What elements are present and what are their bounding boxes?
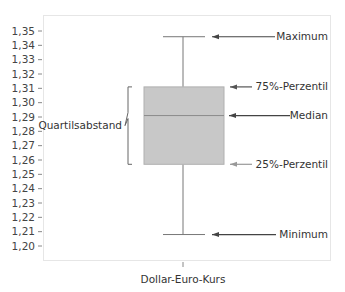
y-tick-label: 1,35 [12, 25, 35, 37]
maximum-label: Maximum [276, 30, 328, 42]
y-tick-label: 1,27 [12, 139, 35, 151]
iqr-box [144, 87, 224, 164]
y-tick-label: 1,20 [12, 240, 35, 252]
y-tick-label: 1,34 [12, 39, 36, 51]
y-tick-label: 1,29 [12, 111, 35, 123]
y-tick-label: 1,32 [12, 68, 35, 80]
iqr-label: Quartilsabstand [38, 119, 122, 131]
boxplot-chart: 1,351,341,331,321,311,301,291,281,271,26… [0, 0, 345, 292]
y-tick-label: 1,31 [12, 82, 35, 94]
y-tick-label: 1,25 [12, 168, 35, 180]
y-tick-label: 1,30 [12, 96, 35, 108]
x-axis-label: Dollar-Euro-Kurs [141, 273, 226, 285]
q3-label: 75%-Perzentil [256, 80, 328, 92]
y-axis: 1,351,341,331,321,311,301,291,281,271,26… [12, 25, 42, 252]
y-tick-label: 1,28 [12, 125, 35, 137]
q1-label: 25%-Perzentil [256, 158, 328, 170]
y-tick-label: 1,23 [12, 197, 35, 209]
y-tick-label: 1,24 [12, 182, 36, 194]
x-axis: Dollar-Euro-Kurs [141, 262, 226, 285]
y-tick-label: 1,26 [12, 154, 36, 166]
median-label: Median [290, 109, 328, 121]
y-tick-label: 1,22 [12, 211, 35, 223]
minimum-label: Minimum [279, 228, 328, 240]
y-tick-label: 1,33 [12, 53, 35, 65]
y-tick-label: 1,21 [12, 225, 35, 237]
